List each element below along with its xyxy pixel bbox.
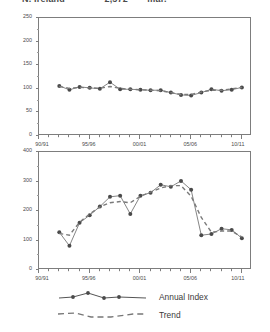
y-minor-tick xyxy=(37,52,39,53)
y-minor-tick xyxy=(37,76,39,77)
data-point-marker xyxy=(199,233,203,237)
y-tick-label: 0 xyxy=(29,132,32,137)
legend-label-annual-index: Annual Index xyxy=(159,291,208,303)
data-point-marker xyxy=(108,195,112,199)
bottom-chart-x-labels: 90/9195/9600/0105/0610/11 xyxy=(38,276,251,284)
header-region-label: N. Ireland xyxy=(22,0,65,4)
y-tick-mark xyxy=(36,240,39,241)
legend-swatch-trend xyxy=(55,308,150,322)
y-tick-mark xyxy=(36,111,39,112)
top-chart: 050100150200250 90/9195/9600/0105/0610/1… xyxy=(0,12,270,150)
bottom-chart-y-axis: 0100200300400 xyxy=(16,146,32,284)
top-chart-y-axis: 050100150200250 xyxy=(16,12,32,150)
y-tick-label: 100 xyxy=(23,85,32,90)
x-tick-label: 95/96 xyxy=(82,276,96,281)
bottom-chart-series-layer xyxy=(39,152,252,270)
x-tick-label: 90/91 xyxy=(35,276,49,281)
y-tick-label: 400 xyxy=(23,148,32,153)
bottom-chart-x-ticks xyxy=(38,269,251,274)
y-tick-label: 200 xyxy=(23,207,32,212)
clipped-header-text: N. Ireland 2,572 mar. xyxy=(22,0,167,4)
header-unit: mar. xyxy=(147,0,166,4)
y-tick-label: 50 xyxy=(26,109,32,114)
data-point-marker xyxy=(189,188,193,192)
y-tick-mark xyxy=(36,135,39,136)
data-point-marker xyxy=(128,212,132,216)
y-tick-mark xyxy=(36,210,39,211)
x-tick-label: 05/06 xyxy=(183,276,197,281)
data-point-marker xyxy=(209,232,213,236)
y-tick-label: 0 xyxy=(29,266,32,271)
y-tick-mark xyxy=(36,17,39,18)
y-minor-tick xyxy=(37,254,39,255)
data-point-marker xyxy=(67,244,71,248)
clipped-header: N. Ireland 2,572 mar. xyxy=(0,0,270,7)
y-tick-mark xyxy=(36,269,39,270)
top-chart-plot-area xyxy=(38,17,251,135)
y-minor-tick xyxy=(37,225,39,226)
y-tick-mark xyxy=(36,151,39,152)
header-value: 2,572 xyxy=(104,0,128,4)
y-minor-tick xyxy=(37,195,39,196)
y-tick-label: 250 xyxy=(23,14,32,19)
y-tick-mark xyxy=(36,41,39,42)
y-minor-tick xyxy=(37,29,39,30)
y-tick-mark xyxy=(36,88,39,89)
y-tick-mark xyxy=(36,64,39,65)
figure-page: N. Ireland 2,572 mar. 050100150200250 90… xyxy=(0,0,270,332)
legend-swatch-annual-index xyxy=(55,290,150,304)
top-chart-series-layer xyxy=(39,18,252,136)
y-minor-tick xyxy=(37,166,39,167)
data-point-marker xyxy=(179,179,183,183)
legend-label-trend: Trend xyxy=(159,309,181,321)
annual-index-line xyxy=(59,181,242,246)
bottom-chart: 0100200300400 90/9195/9600/0105/0610/11 xyxy=(0,146,270,284)
data-point-marker xyxy=(118,194,122,198)
x-tick-label: 10/11 xyxy=(231,276,244,281)
bottom-chart-plot-area xyxy=(38,151,251,269)
y-tick-mark xyxy=(36,181,39,182)
chart-legend: Annual Index Trend xyxy=(0,288,270,332)
y-tick-label: 100 xyxy=(23,237,32,242)
top-chart-x-ticks xyxy=(38,135,251,140)
y-minor-tick xyxy=(37,100,39,101)
x-tick-label: 00/01 xyxy=(133,276,147,281)
data-point-marker xyxy=(159,183,163,187)
y-minor-tick xyxy=(37,123,39,124)
data-point-marker xyxy=(220,227,224,231)
y-tick-label: 300 xyxy=(23,178,32,183)
y-tick-label: 150 xyxy=(23,61,32,66)
y-tick-label: 200 xyxy=(23,38,32,43)
data-point-marker xyxy=(108,80,112,84)
